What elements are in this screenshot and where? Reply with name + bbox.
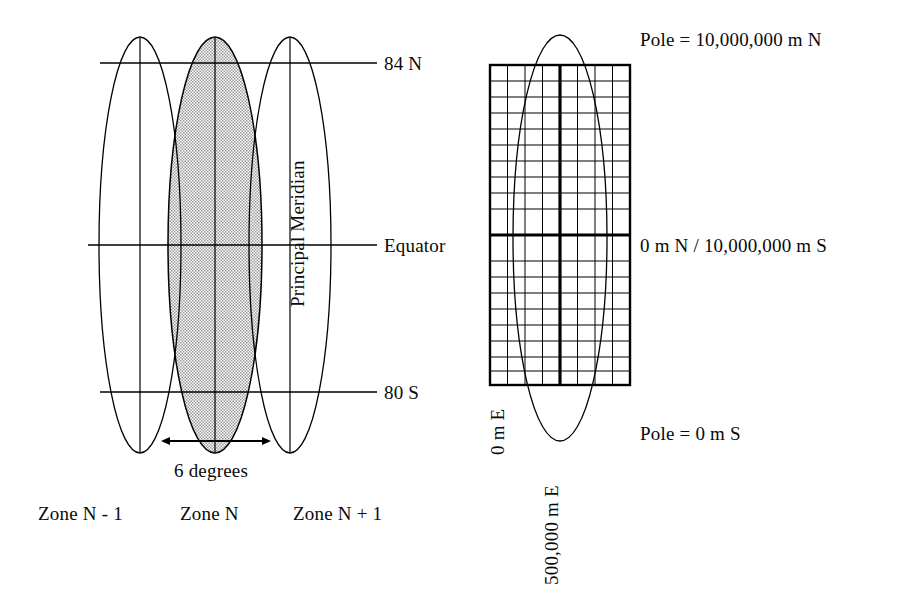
zone-label-current: Zone N	[180, 504, 239, 523]
latitude-label-80s: 80 S	[384, 383, 419, 402]
latitude-label-84n: 84 N	[384, 54, 422, 73]
northing-label-equator: 0 m N / 10,000,000 m S	[640, 236, 827, 255]
left-diagram-group	[88, 37, 377, 453]
easting-label-central-meridian: 500,000 m E	[542, 485, 561, 585]
principal-meridian-label: Principal Meridian	[288, 160, 307, 307]
diagram-canvas	[0, 0, 902, 597]
zone-label-next: Zone N + 1	[293, 504, 382, 523]
zone-label-previous: Zone N - 1	[38, 504, 123, 523]
easting-label-west-edge: 0 m E	[488, 409, 507, 455]
right-diagram-group	[490, 35, 630, 441]
northing-label-pole-north: Pole = 10,000,000 m N	[640, 30, 822, 49]
northing-label-pole-south: Pole = 0 m S	[640, 424, 741, 443]
six-degrees-label: 6 degrees	[174, 461, 248, 480]
utm-diagram-figure: 84 N Equator 80 S Principal Meridian 6 d…	[0, 0, 902, 597]
latitude-label-equator: Equator	[384, 236, 446, 255]
